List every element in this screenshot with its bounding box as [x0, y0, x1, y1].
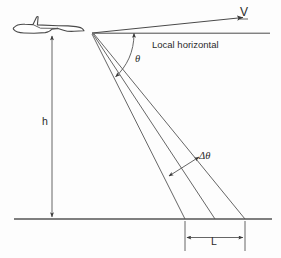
diagram-canvas: V Local horizontal θ Δθ h L: [0, 0, 281, 258]
footprint-label: L: [211, 235, 217, 247]
angle-arc-icon: [116, 34, 135, 78]
local-horizontal-label: Local horizontal: [152, 39, 219, 50]
depression-angle-label: θ: [135, 53, 140, 64]
beamwidth-arrow: [169, 157, 199, 176]
beam-line-far: [94, 34, 245, 219]
beamwidth-dimension: [169, 157, 199, 176]
geometry-figure: V Local horizontal θ Δθ h L: [0, 0, 281, 258]
velocity-vector-arrow: [92, 18, 243, 34]
aircraft-silhouette-icon: [13, 17, 84, 34]
radar-beam-lines: [92, 34, 245, 219]
beam-line-center: [93, 34, 215, 219]
velocity-label: V: [240, 5, 248, 19]
altitude-label: h: [42, 115, 48, 127]
beamwidth-label: Δθ: [198, 150, 210, 161]
